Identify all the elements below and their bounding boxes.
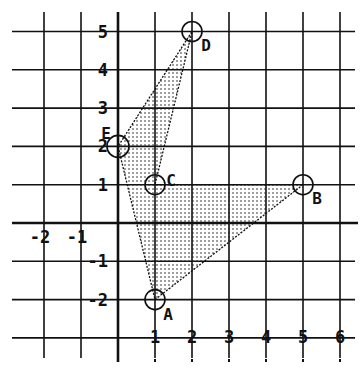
x-tick-dot: [154, 359, 156, 362]
point-label-c: C: [166, 171, 176, 190]
x-tick-label: -1: [67, 227, 87, 247]
x-tick-dot: [265, 359, 267, 362]
x-tick-label: 1: [150, 327, 160, 347]
y-tick-labels: 54321-1-2: [88, 22, 108, 310]
point-label-e: E: [101, 124, 111, 143]
x-tick-label: 6: [335, 327, 345, 347]
x-tick-dot: [302, 359, 304, 362]
y-tick-label: -1: [88, 251, 108, 271]
y-tick-label: -2: [88, 290, 108, 310]
point-label-b: B: [312, 189, 322, 208]
x-tick-label: 5: [298, 327, 308, 347]
y-tick-label: 3: [98, 98, 108, 118]
x-tick-dot: [228, 359, 230, 362]
point-label-d: D: [201, 36, 211, 55]
x-tick-label: 3: [224, 327, 234, 347]
x-tick-dot: [191, 359, 193, 362]
point-label-a: A: [163, 305, 173, 324]
y-tick-label: 4: [98, 60, 108, 80]
x-tick-label: 4: [261, 327, 271, 347]
x-tick-label: 2: [187, 327, 197, 347]
y-tick-label: 1: [98, 175, 108, 195]
x-tick-label: -2: [30, 227, 50, 247]
shaded-polygon: [118, 32, 303, 300]
coordinate-plane: -2-1123456 54321-1-2 ABCDE: [0, 0, 362, 375]
y-tick-label: 5: [98, 22, 108, 42]
x-tick-dot: [339, 359, 341, 362]
